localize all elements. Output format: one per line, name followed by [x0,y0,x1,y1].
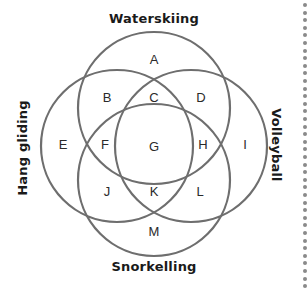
border-dot [303,147,307,151]
border-dot [303,94,307,98]
border-dot [303,49,307,53]
region-j: J [104,184,111,199]
border-dot [303,185,307,189]
border-dot [303,178,307,182]
region-f: F [101,137,109,152]
region-h: H [198,137,207,152]
border-dot [303,269,307,273]
set-label-hang-gliding: Hang gliding [15,100,30,196]
region-g: G [149,139,159,154]
dotted-border [303,0,308,287]
border-dot [303,3,307,7]
border-dot [303,239,307,243]
border-dot [303,11,307,15]
border-dot [303,140,307,144]
region-e: E [59,137,68,152]
border-dot [303,125,307,129]
region-d: D [196,90,205,105]
set-label-waterskiing: Waterskiing [0,11,308,26]
border-dot [303,231,307,235]
region-a: A [150,52,159,67]
border-dot [303,26,307,30]
border-dot [303,170,307,174]
border-dot [303,223,307,227]
region-i: I [243,137,247,152]
border-dot [303,79,307,83]
border-dot [303,216,307,220]
border-dot [303,102,307,106]
border-dot [303,132,307,136]
border-dot [303,33,307,37]
region-b: B [103,90,112,105]
set-label-snorkelling: Snorkelling [0,259,308,274]
border-dot [303,284,307,288]
border-dot [303,41,307,45]
border-dot [303,277,307,281]
border-dot [303,109,307,113]
border-dot [303,71,307,75]
set-label-volleyball: Volleyball [269,108,284,181]
border-dot [303,87,307,91]
border-dot [303,261,307,265]
border-dot [303,163,307,167]
border-dot [303,193,307,197]
border-dot [303,201,307,205]
border-dot [303,208,307,212]
border-dot [303,117,307,121]
region-m: M [149,224,160,239]
border-dot [303,254,307,258]
border-dot [303,56,307,60]
region-k: K [150,184,159,199]
border-dot [303,64,307,68]
border-dot [303,155,307,159]
border-dot [303,18,307,22]
border-dot [303,246,307,250]
region-l: L [196,184,203,199]
region-c: C [149,90,158,105]
